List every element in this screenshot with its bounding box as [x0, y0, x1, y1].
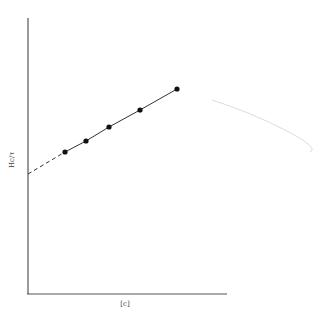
- faint-curve: [212, 100, 312, 152]
- data-point: [137, 107, 142, 112]
- x-axis-label: [c]: [110, 300, 140, 308]
- data-point: [174, 86, 179, 91]
- data-point: [83, 138, 88, 143]
- data-line: [65, 89, 177, 152]
- y-axis-label: Hc/τ: [2, 152, 22, 168]
- chart-canvas: [0, 0, 320, 322]
- extrapolation-dashed-line: [28, 152, 65, 174]
- data-point: [62, 149, 67, 154]
- data-point: [106, 124, 111, 129]
